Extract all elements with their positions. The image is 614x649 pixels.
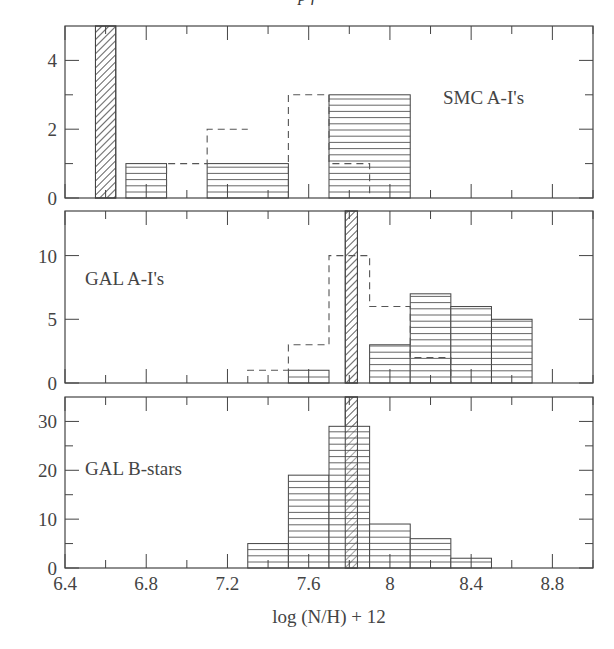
histogram-bar xyxy=(410,294,451,383)
x-tick-label: 7.2 xyxy=(216,573,240,594)
y-tick-label: 0 xyxy=(48,188,58,209)
y-tick-label: 10 xyxy=(38,246,57,267)
panel-label: GAL A-I's xyxy=(85,268,164,289)
panel-middle: 0510GAL A-I's xyxy=(38,211,593,394)
x-axis: 6.46.87.27.688.48.8 xyxy=(53,573,564,594)
panel-label: SMC A-I's xyxy=(443,87,524,108)
x-tick-label: 6.4 xyxy=(53,573,77,594)
x-tick-label: 8.4 xyxy=(459,573,483,594)
y-tick-label: 4 xyxy=(48,50,58,71)
histogram-bar xyxy=(207,164,288,198)
y-tick-label: 5 xyxy=(48,309,58,330)
y-tick-label: 10 xyxy=(38,509,57,530)
y-tick-label: 30 xyxy=(38,411,57,432)
histogram-figure: 024SMC A-I's0510GAL A-I's0102030GAL B-st… xyxy=(0,0,614,649)
histogram-bar xyxy=(329,95,410,198)
panel-label: GAL B-stars xyxy=(85,458,182,479)
y-tick-label: 20 xyxy=(38,460,57,481)
x-tick-label: 8.8 xyxy=(541,573,565,594)
y-tick-label: 0 xyxy=(48,373,58,394)
panel-bottom: 0102030GAL B-stars xyxy=(38,397,593,579)
x-tick-label: 7.6 xyxy=(297,573,321,594)
histogram-bar xyxy=(491,319,532,383)
x-tick-label: 8 xyxy=(385,573,395,594)
x-axis-label: log (N/H) + 12 xyxy=(272,606,386,628)
panel-top: 024SMC A-I's xyxy=(48,26,594,209)
x-tick-label: 6.8 xyxy=(134,573,158,594)
y-tick-label: 2 xyxy=(48,119,58,140)
